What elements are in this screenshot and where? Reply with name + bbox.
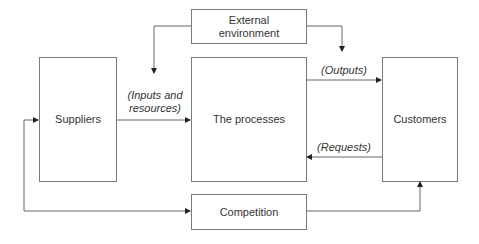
- outputs-label: (Outputs): [318, 64, 370, 77]
- external-environment-label: External environment: [219, 14, 280, 40]
- competition-label: Competition: [220, 206, 279, 219]
- inputs-label-line2: resources): [120, 102, 190, 115]
- competition-to-suppliers-arrow: [24, 120, 38, 211]
- ext-to-inputs-arrow: [154, 26, 191, 73]
- external-environment-box: External environment: [191, 9, 307, 44]
- processes-label: The processes: [213, 113, 285, 126]
- inputs-label-line1: (Inputs and: [120, 89, 190, 102]
- suppliers-label: Suppliers: [55, 113, 101, 126]
- requests-label: (Requests): [314, 141, 374, 154]
- suppliers-box: Suppliers: [39, 57, 117, 182]
- ext-to-outputs-arrow: [306, 26, 342, 51]
- customers-label: Customers: [393, 113, 446, 126]
- customers-box: Customers: [382, 57, 458, 182]
- processes-box: The processes: [191, 57, 307, 182]
- competition-to-customers-arrow: [306, 182, 420, 211]
- competition-box: Competition: [191, 194, 307, 230]
